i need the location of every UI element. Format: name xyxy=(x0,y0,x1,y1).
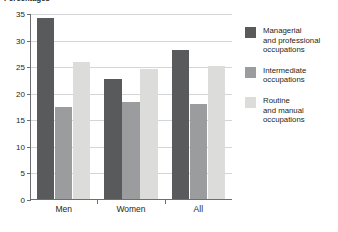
legend-item: Managerial and professional occupations xyxy=(245,26,337,55)
y-tick-mark xyxy=(27,147,31,148)
y-tick-mark xyxy=(27,14,31,15)
y-tick-label: 10 xyxy=(16,142,25,151)
x-axis-line xyxy=(30,199,232,200)
y-tick-mark xyxy=(27,173,31,174)
legend-label: Routine and manual occupations xyxy=(263,96,305,125)
chart-title: Percentages xyxy=(4,0,50,3)
gridline xyxy=(30,14,232,15)
category-label: Men xyxy=(55,204,72,214)
bar xyxy=(140,69,158,199)
x-tick-mark xyxy=(97,200,98,204)
bar xyxy=(190,104,208,199)
bar-chart-figure: Percentages 05101520253035 MenWomenAll M… xyxy=(0,0,338,232)
legend-item: Routine and manual occupations xyxy=(245,96,337,125)
y-tick-label: 20 xyxy=(16,89,25,98)
bar xyxy=(172,50,190,199)
bar xyxy=(37,18,55,199)
legend-label: Managerial and professional occupations xyxy=(263,26,320,55)
y-tick-label: 5 xyxy=(21,169,25,178)
legend-swatch-icon xyxy=(245,67,256,78)
category-label: Women xyxy=(116,204,145,214)
legend-swatch-icon xyxy=(245,27,256,38)
plot-area: 05101520253035 MenWomenAll xyxy=(30,14,232,200)
y-tick-label: 15 xyxy=(16,116,25,125)
legend-item: Intermediate occupations xyxy=(245,66,337,85)
y-tick-mark xyxy=(27,200,31,201)
y-tick-mark xyxy=(27,94,31,95)
legend-swatch-icon xyxy=(245,97,256,108)
y-axis-line xyxy=(30,14,31,200)
y-tick-label: 0 xyxy=(21,196,25,205)
x-tick-mark xyxy=(165,200,166,204)
y-tick-label: 25 xyxy=(16,63,25,72)
gridline xyxy=(30,41,232,42)
bar xyxy=(73,62,91,199)
category-label: All xyxy=(194,204,203,214)
chart-legend: Managerial and professional occupationsI… xyxy=(245,26,337,136)
bar xyxy=(55,107,73,199)
y-tick-mark xyxy=(27,67,31,68)
y-tick-mark xyxy=(27,41,31,42)
y-tick-label: 30 xyxy=(16,36,25,45)
bar xyxy=(122,102,140,199)
legend-label: Intermediate occupations xyxy=(263,66,306,85)
bar xyxy=(208,66,226,199)
y-tick-mark xyxy=(27,120,31,121)
gridline xyxy=(30,67,232,68)
gridline xyxy=(30,94,232,95)
bar xyxy=(104,79,122,199)
y-tick-label: 35 xyxy=(16,10,25,19)
